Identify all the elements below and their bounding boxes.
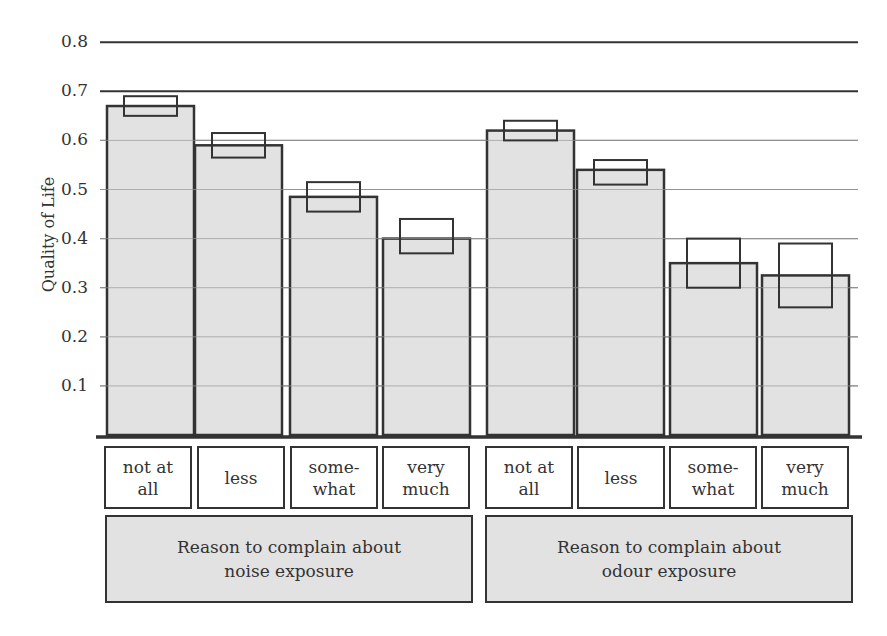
category-label: not at all	[104, 446, 192, 509]
bar	[670, 263, 757, 435]
bar	[577, 170, 664, 435]
category-label: less	[197, 446, 285, 509]
category-label: not at all	[485, 446, 573, 509]
y-tick-label: 0.2	[38, 326, 88, 346]
y-tick-label: 0.3	[38, 277, 88, 297]
y-tick-label: 0.1	[38, 375, 88, 395]
category-label: very much	[761, 446, 849, 509]
y-tick-label: 0.8	[38, 31, 88, 51]
group-label: Reason to complain about noise exposure	[105, 515, 473, 603]
bar-chart: Quality of Life 0.10.20.30.40.50.60.70.8…	[0, 0, 887, 636]
y-tick-label: 0.5	[38, 179, 88, 199]
category-label: less	[577, 446, 665, 509]
bar	[487, 131, 574, 435]
category-label: very much	[382, 446, 470, 509]
category-label: some- what	[290, 446, 378, 509]
y-tick-label: 0.6	[38, 129, 88, 149]
bar	[195, 145, 282, 435]
y-tick-label: 0.7	[38, 80, 88, 100]
bar	[762, 275, 849, 435]
category-label: some- what	[669, 446, 757, 509]
group-label: Reason to complain about odour exposure	[485, 515, 853, 603]
y-tick-label: 0.4	[38, 228, 88, 248]
bar	[290, 197, 377, 435]
